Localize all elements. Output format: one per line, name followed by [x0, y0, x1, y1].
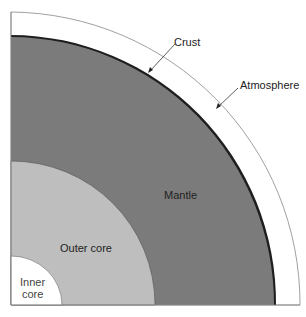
- atmosphere-label: Atmosphere: [240, 79, 299, 92]
- atmosphere-leader-line: [218, 88, 238, 107]
- inner-core-label-line2: core: [22, 288, 43, 301]
- outer-core-label: Outer core: [60, 242, 112, 255]
- earth-layers-diagram: [0, 0, 306, 317]
- crust-label: Crust: [174, 36, 200, 49]
- mantle-label: Mantle: [164, 189, 197, 202]
